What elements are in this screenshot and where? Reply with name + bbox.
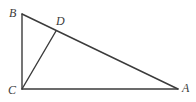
segment-CD — [22, 31, 56, 89]
vertex-label-c: C — [8, 84, 16, 96]
vertex-label-b: B — [9, 7, 16, 19]
vertex-label-d: D — [56, 15, 65, 27]
segment-BA — [22, 14, 178, 89]
geometry-canvas — [0, 0, 196, 102]
geometry-figure: B D C A — [0, 0, 196, 102]
vertex-label-a: A — [182, 82, 189, 94]
